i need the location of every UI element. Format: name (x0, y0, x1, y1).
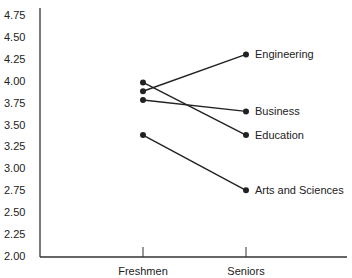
series-label: Business (255, 105, 300, 117)
data-point (243, 108, 249, 114)
data-point (140, 97, 146, 103)
x-axis: FreshmenSeniors (40, 247, 347, 277)
y-tick-label: 4.25 (4, 53, 25, 65)
y-tick-label: 3.25 (4, 140, 25, 152)
series-lines: EngineeringBusinessEducationArts and Sci… (140, 48, 344, 196)
y-tick-label: 3.00 (4, 162, 25, 174)
series-business: Business (140, 97, 300, 117)
series-line (143, 135, 246, 190)
y-tick-label: 3.50 (4, 119, 25, 131)
data-point (243, 51, 249, 57)
y-tick-label: 3.75 (4, 97, 25, 109)
y-axis: 4.754.504.254.003.753.503.253.002.752.50… (4, 8, 40, 262)
series-label: Engineering (255, 48, 314, 60)
series-arts-and-sciences: Arts and Sciences (140, 132, 344, 196)
data-point (243, 187, 249, 193)
y-tick-label: 2.75 (4, 184, 25, 196)
data-point (243, 132, 249, 138)
x-tick-label: Seniors (227, 265, 265, 277)
y-tick-label: 2.00 (4, 250, 25, 262)
y-tick-label: 2.50 (4, 206, 25, 218)
series-label: Arts and Sciences (255, 184, 344, 196)
y-tick-label: 4.75 (4, 9, 25, 21)
series-engineering: Engineering (140, 48, 314, 94)
y-tick-label: 4.50 (4, 31, 25, 43)
series-line (143, 54, 246, 91)
y-tick-label: 2.25 (4, 228, 25, 240)
series-line (143, 82, 246, 135)
slope-chart: 4.754.504.254.003.753.503.253.002.752.50… (0, 0, 352, 278)
x-tick-label: Freshmen (118, 265, 168, 277)
data-point (140, 88, 146, 94)
series-line (143, 100, 246, 111)
data-point (140, 79, 146, 85)
y-tick-label: 4.00 (4, 75, 25, 87)
data-point (140, 132, 146, 138)
series-label: Education (255, 129, 304, 141)
